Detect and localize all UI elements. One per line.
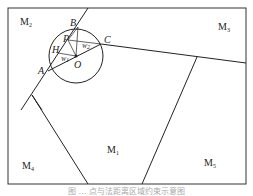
label-w1: W1: [61, 56, 69, 63]
label-m4: M4: [22, 160, 34, 172]
label-o: O: [74, 59, 81, 70]
figure-caption: 图 … 点与法距离区域约束示意图: [0, 185, 253, 196]
label-w2: W2: [82, 43, 90, 50]
label-m1: M1: [107, 144, 119, 156]
label-m2: M2: [20, 16, 32, 28]
line-m1-m5: [142, 57, 197, 184]
label-m3: M3: [218, 21, 230, 33]
label-a: A: [37, 65, 45, 76]
label-m5: M5: [204, 157, 216, 169]
line-c-right: [101, 44, 246, 63]
label-p: P: [62, 33, 69, 44]
label-b: B: [70, 17, 76, 28]
label-c: C: [104, 34, 111, 45]
voronoi-diagram: M2 M3 M1 M4 M5 B P C H O A W1 W2: [0, 0, 253, 196]
label-h: H: [51, 44, 60, 55]
